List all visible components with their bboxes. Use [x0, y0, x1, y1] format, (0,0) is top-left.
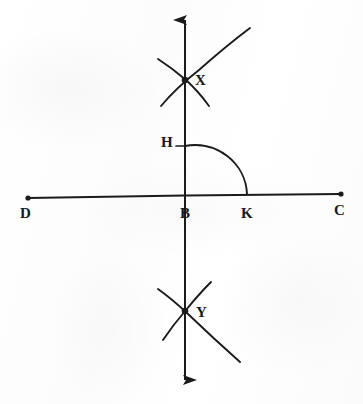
point-label-H: H — [161, 135, 173, 150]
geometry-figure — [0, 0, 363, 404]
figure-canvas: D C B K H X Y — [0, 0, 363, 404]
arc-lower-long — [158, 289, 240, 362]
point-label-C: C — [334, 203, 345, 218]
arc-upper-long — [161, 28, 250, 106]
point-label-B: B — [180, 206, 190, 221]
endpoint-dot-D — [25, 195, 30, 200]
point-X-dot — [182, 77, 189, 84]
endpoint-dot-C — [338, 191, 343, 196]
point-Y-dot — [182, 308, 189, 315]
point-label-Y: Y — [196, 305, 207, 320]
point-label-K: K — [241, 206, 253, 221]
point-label-D: D — [20, 206, 31, 221]
arc-H-to-K — [176, 145, 247, 194]
point-label-X: X — [195, 73, 206, 88]
